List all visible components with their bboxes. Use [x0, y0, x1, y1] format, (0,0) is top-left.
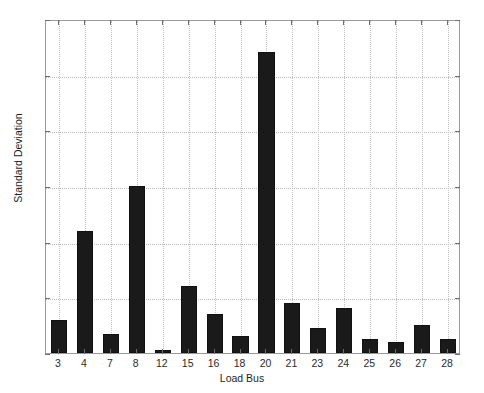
gridline-x-25 — [370, 21, 371, 353]
y-tick-mark-6 — [45, 20, 50, 21]
x-tick-mark-26 — [395, 349, 396, 354]
x-tick-mark-12 — [162, 349, 163, 354]
x-tick-mark-top-4 — [84, 20, 85, 25]
y-tick-mark-right-6 — [455, 20, 460, 21]
x-tick-mark-top-3 — [58, 20, 59, 25]
x-tick-mark-top-27 — [421, 20, 422, 25]
gridline-x-12 — [163, 21, 164, 353]
x-tick-mark-top-23 — [317, 20, 318, 25]
x-tick-mark-top-26 — [395, 20, 396, 25]
x-tick-mark-20 — [265, 349, 266, 354]
bar-3 — [51, 320, 67, 353]
y-tick-mark-2 — [45, 243, 50, 244]
x-tick-mark-top-20 — [265, 20, 266, 25]
x-axis-title: Load Bus — [0, 372, 484, 384]
y-tick-mark-right-2 — [455, 243, 460, 244]
bar-15 — [181, 286, 197, 353]
x-tick-mark-27 — [421, 349, 422, 354]
y-tick-mark-right-1 — [455, 298, 460, 299]
x-tick-mark-18 — [240, 349, 241, 354]
gridline-x-28 — [448, 21, 449, 353]
gridline-x-24 — [344, 21, 345, 353]
x-tick-mark-top-28 — [447, 20, 448, 25]
bar-8 — [129, 186, 145, 353]
x-tick-mark-top-18 — [240, 20, 241, 25]
x-tick-mark-top-25 — [369, 20, 370, 25]
x-tick-mark-23 — [317, 349, 318, 354]
bar-24 — [336, 308, 352, 353]
y-tick-mark-right-5 — [455, 76, 460, 77]
x-tick-mark-top-21 — [291, 20, 292, 25]
x-tick-mark-3 — [58, 349, 59, 354]
plot-area — [45, 20, 460, 354]
y-tick-mark-3 — [45, 187, 50, 188]
x-tick-mark-15 — [188, 349, 189, 354]
x-tick-mark-25 — [369, 349, 370, 354]
x-tick-label-28: 28 — [432, 357, 462, 369]
y-tick-mark-right-0 — [455, 354, 460, 355]
x-tick-mark-top-24 — [343, 20, 344, 25]
chart-figure: 0123456 3478121516182021232425262728 Sta… — [0, 0, 484, 393]
y-tick-mark-4 — [45, 131, 50, 132]
gridline-x-3 — [59, 21, 60, 353]
bar-20 — [258, 52, 274, 353]
y-tick-mark-5 — [45, 76, 50, 77]
x-tick-mark-top-8 — [136, 20, 137, 25]
x-tick-mark-top-12 — [162, 20, 163, 25]
x-tick-mark-top-7 — [110, 20, 111, 25]
x-tick-mark-16 — [214, 349, 215, 354]
y-tick-mark-0 — [45, 354, 50, 355]
bar-21 — [284, 303, 300, 353]
gridline-x-23 — [318, 21, 319, 353]
x-tick-mark-24 — [343, 349, 344, 354]
x-tick-mark-8 — [136, 349, 137, 354]
y-tick-mark-1 — [45, 298, 50, 299]
x-tick-mark-28 — [447, 349, 448, 354]
gridline-x-18 — [241, 21, 242, 353]
gridline-x-26 — [396, 21, 397, 353]
bar-4 — [77, 231, 93, 353]
y-axis-title: Standard Deviation — [12, 78, 24, 238]
bar-16 — [207, 314, 223, 353]
gridline-x-27 — [422, 21, 423, 353]
x-tick-mark-21 — [291, 349, 292, 354]
y-tick-mark-right-4 — [455, 131, 460, 132]
gridline-x-16 — [215, 21, 216, 353]
x-tick-mark-top-16 — [214, 20, 215, 25]
y-tick-mark-right-3 — [455, 187, 460, 188]
gridline-x-7 — [111, 21, 112, 353]
x-tick-mark-top-15 — [188, 20, 189, 25]
x-tick-mark-4 — [84, 349, 85, 354]
x-tick-mark-7 — [110, 349, 111, 354]
